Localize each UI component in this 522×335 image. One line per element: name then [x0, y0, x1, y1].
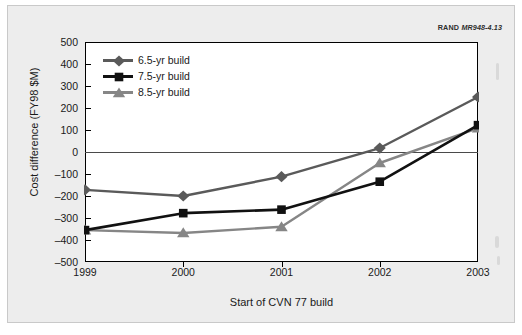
legend-swatch-icon	[103, 85, 133, 99]
legend-swatch-icon	[103, 53, 133, 67]
data-point-marker	[276, 171, 288, 182]
legend-item-diamond: 6.5-yr build	[103, 52, 228, 68]
data-point-marker	[474, 121, 483, 130]
y-axis-title: Cost difference (FY98 $M)	[28, 32, 40, 232]
data-point-marker	[79, 184, 91, 195]
line-chart: 5004003002001000–100–200–300–400–500 199…	[0, 0, 522, 335]
legend-swatch-icon	[103, 69, 133, 83]
legend-item-label: 7.5-yr build	[133, 70, 190, 82]
data-point-marker	[177, 190, 189, 201]
legend-item-label: 8.5-yr build	[133, 86, 190, 98]
data-point-marker	[277, 205, 286, 214]
figure-container: RAND MR948-4.13 5004003002001000–100–200…	[0, 0, 522, 335]
data-point-marker	[81, 226, 90, 235]
data-point-marker	[375, 177, 384, 186]
data-point-marker	[472, 91, 484, 102]
x-axis-title: Start of CVN 77 build	[85, 296, 478, 308]
legend-item-triangle: 8.5-yr build	[103, 84, 228, 100]
chart-legend: 6.5-yr build7.5-yr build8.5-yr build	[103, 52, 228, 100]
series-plot-layer	[0, 0, 522, 335]
legend-item-label: 6.5-yr build	[133, 54, 190, 66]
data-point-marker	[179, 209, 188, 218]
legend-item-square: 7.5-yr build	[103, 68, 228, 84]
data-point-marker	[374, 142, 386, 153]
